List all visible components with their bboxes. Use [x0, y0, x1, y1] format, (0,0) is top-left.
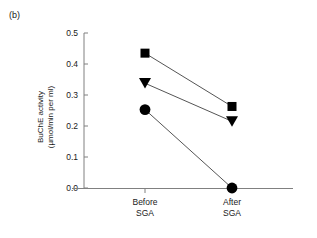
- x-category-after-sga-line1: After: [223, 197, 241, 207]
- data-point-subject-2-before: [139, 78, 151, 89]
- x-category-label-before-sga: Before SGA: [109, 197, 181, 219]
- x-category-after-sga-line2: SGA: [196, 208, 268, 219]
- y-axis-ticks: [84, 33, 88, 188]
- data-point-subject-3-after: [227, 183, 238, 194]
- data-point-subject-1-before: [141, 49, 150, 58]
- series-line-subject-1: [145, 53, 232, 106]
- data-point-subject-2-after: [226, 116, 238, 127]
- figure-panel-b: (b) BuChE activity (µmol/min per ml) 0.5…: [0, 0, 317, 238]
- series-lines: [145, 53, 232, 188]
- series-line-subject-2: [145, 83, 232, 121]
- x-category-before-sga-line1: Before: [132, 197, 157, 207]
- x-axis-ticks: [145, 189, 232, 193]
- x-category-label-after-sga: After SGA: [196, 197, 268, 219]
- data-point-subject-1-after: [228, 102, 237, 111]
- x-category-before-sga-line2: SGA: [109, 208, 181, 219]
- series-line-subject-3: [145, 110, 232, 188]
- data-point-subject-3-before: [140, 104, 151, 115]
